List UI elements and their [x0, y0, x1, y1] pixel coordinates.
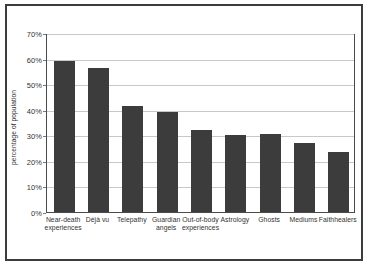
y-axis-title: percentage of population — [10, 68, 17, 188]
y-tick-label: 60% — [27, 55, 42, 64]
bar — [54, 61, 75, 212]
bar — [157, 112, 178, 212]
axis-baseline — [47, 212, 354, 213]
bar — [122, 106, 143, 212]
y-axis: 0%10%20%30%40%50%60%70% — [0, 0, 46, 267]
bar — [191, 130, 212, 212]
y-tick-label: 0% — [31, 209, 42, 218]
x-axis-labels: Near-death experiencesDéjà vuTelepathyGu… — [46, 216, 355, 246]
y-tick-label: 10% — [27, 183, 42, 192]
y-tick-label: 70% — [27, 30, 42, 39]
bar-series — [47, 34, 354, 212]
bar — [328, 152, 349, 212]
x-tick-label: Faithhealers — [318, 216, 358, 224]
y-tick-label: 30% — [27, 132, 42, 141]
bar — [88, 68, 109, 212]
y-tick-label: 50% — [27, 81, 42, 90]
bar — [260, 134, 281, 212]
y-tick-label: 20% — [27, 157, 42, 166]
plot-area — [46, 34, 355, 213]
y-tick-mark — [43, 213, 46, 214]
bar — [225, 135, 246, 212]
figure: 0%10%20%30%40%50%60%70% percentage of po… — [0, 0, 369, 267]
bar — [294, 143, 315, 212]
y-tick-label: 40% — [27, 106, 42, 115]
